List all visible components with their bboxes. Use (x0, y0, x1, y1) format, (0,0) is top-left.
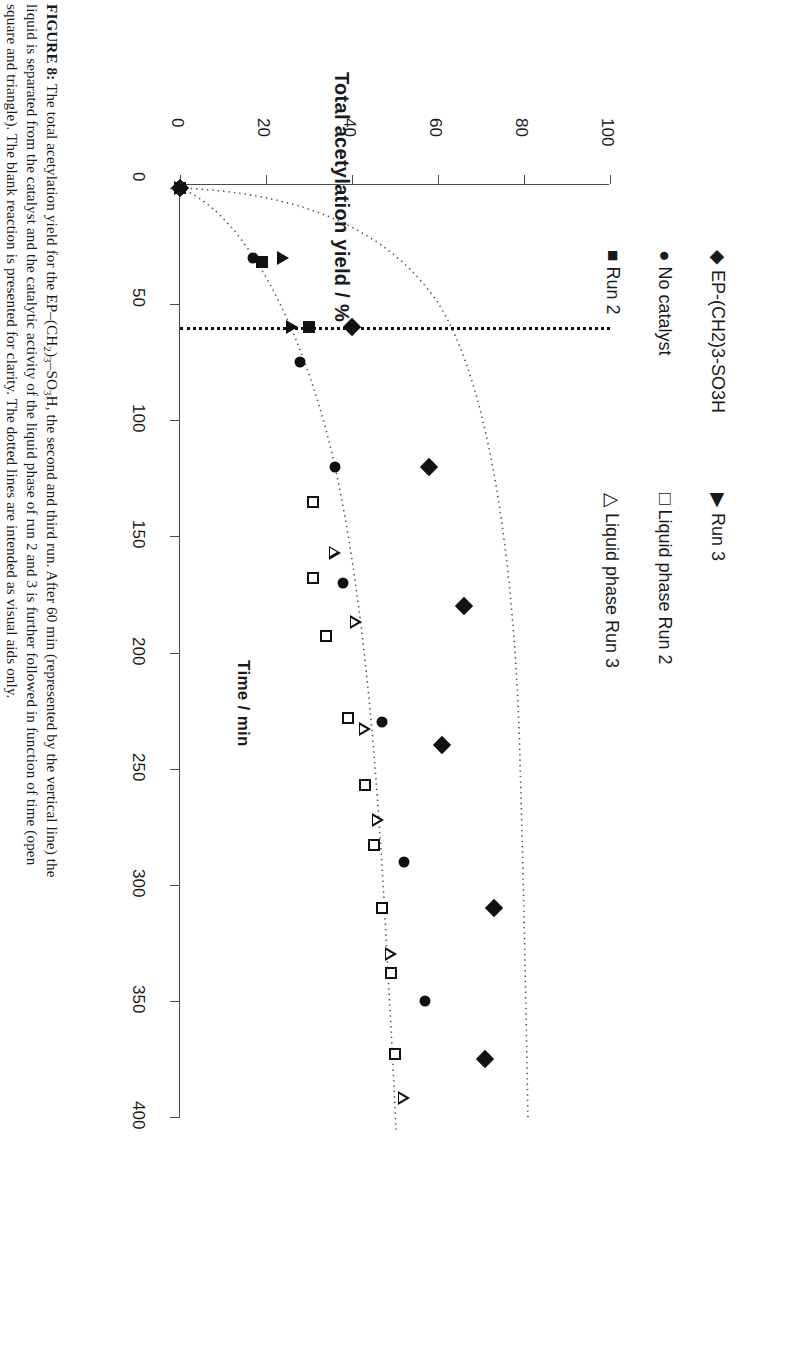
legend-item-run-2: ■ Run 2 (602, 250, 624, 315)
caption-line-1: FIGURE 8: The total acetylation yield fo… (42, 4, 60, 878)
caption-line-3: square and triangle). The blank reaction… (5, 4, 20, 699)
figure-label: FIGURE 8: (44, 4, 61, 80)
legend-item-no-catalyst: ● No catalyst (654, 250, 676, 356)
legend-item-run-3: ▶ Run 3 (707, 493, 730, 561)
figure-caption: FIGURE 8: The total acetylation yield fo… (0, 0, 76, 1347)
legend-item-liquid-phase-run-3: △ Liquid phase Run 3 (601, 493, 624, 668)
figure-plot: Total acetylation yield / % Time / min 0… (76, 0, 785, 1347)
legend-item-ep-ch2-3-so3h: ◆ EP-(CH2)3-SO3H (707, 250, 730, 413)
open-square-icon: □ (655, 493, 676, 504)
figure-legend: ◆ EP-(CH2)3-SO3H ● No catalyst ■ Run 2 ▶… (76, 0, 785, 1347)
caption-line-2: liquid is separated from the catalyst an… (25, 4, 40, 865)
open-triangle-icon: △ (602, 493, 623, 508)
filled-square-icon: ■ (603, 250, 624, 261)
legend-item-liquid-phase-run-2: □ Liquid phase Run 2 (654, 493, 676, 665)
filled-circle-icon: ● (655, 250, 676, 261)
filled-triangle-icon: ▶ (708, 493, 729, 508)
filled-diamond-icon: ◆ (708, 250, 729, 265)
